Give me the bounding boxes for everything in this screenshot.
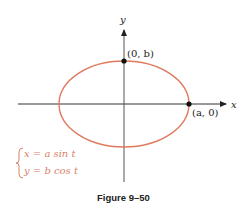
equation-line-1: x = a sin t	[24, 148, 76, 159]
point-label-0-b: (0, b)	[127, 48, 154, 59]
ellipse-diagram: y x (0, b) (a, 0) x = a sin t y = b cos …	[0, 0, 252, 214]
equation-brace	[16, 148, 23, 178]
equation-line-2: y = b cos t	[23, 165, 79, 176]
figure-caption: Figure 9–50	[97, 192, 150, 203]
point-a-0	[186, 101, 191, 106]
point-0-b	[121, 58, 126, 63]
x-axis-label: x	[231, 99, 237, 110]
point-label-a-0: (a, 0)	[192, 107, 219, 118]
y-axis-label: y	[119, 14, 126, 25]
